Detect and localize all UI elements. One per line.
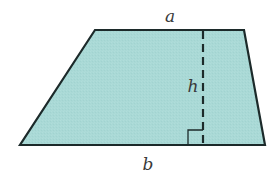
label-height: h: [188, 76, 199, 96]
trapezoid-diagram: a h b: [0, 0, 277, 177]
label-top-base: a: [165, 6, 175, 26]
trapezoid-shape: [20, 30, 265, 145]
label-bottom-base: b: [143, 154, 154, 174]
